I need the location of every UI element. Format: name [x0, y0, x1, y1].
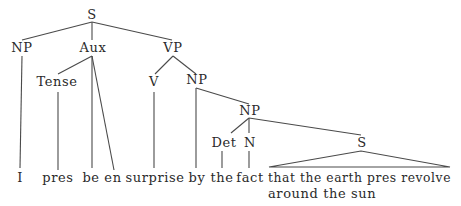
node-tense: Tense [36, 74, 77, 89]
node-det: Det [211, 135, 236, 150]
terminal-clause-line1: that the earth pres revolve [268, 170, 451, 185]
triangle-embedded-s [269, 151, 450, 167]
edge-s-np [22, 22, 92, 40]
terminal-surprise: surprise [125, 170, 184, 185]
terminal-be: be [82, 170, 99, 185]
node-noun: N [244, 135, 256, 150]
edge-s-vp [92, 22, 172, 40]
syntax-tree-diagram: S NP Aux VP Tense V NP NP Det N S I pres… [0, 0, 461, 206]
terminal-by: by [189, 170, 206, 185]
edge-np-s [249, 118, 361, 135]
node-root-s: S [87, 7, 97, 22]
edge-aux-tense [58, 56, 92, 74]
terminal-clause-line2: around the sun [268, 186, 376, 201]
node-verb: V [148, 74, 159, 89]
tree-nodes: S NP Aux VP Tense V NP NP Det N S [11, 7, 366, 150]
terminal-en: en [104, 170, 121, 185]
node-inner-np: NP [239, 103, 260, 118]
edge-vp-v [155, 56, 173, 74]
edge-np-det [231, 118, 249, 133]
terminal-i: I [17, 170, 23, 185]
tree-terminals: I pres be en surprise by the fact that t… [17, 170, 451, 201]
node-embedded-s: S [357, 135, 367, 150]
terminal-fact: fact [236, 170, 264, 185]
node-vp: VP [162, 40, 182, 55]
edge-np-np [196, 88, 249, 104]
node-aux: Aux [79, 40, 107, 55]
edge-np-i [20, 56, 22, 168]
node-subject-np: NP [11, 40, 32, 55]
edge-aux-en [92, 56, 114, 170]
node-object-np: NP [186, 72, 207, 87]
terminal-the: the [210, 170, 233, 185]
terminal-pres: pres [42, 170, 73, 185]
